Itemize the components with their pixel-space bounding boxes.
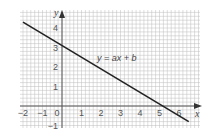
- x-tick-label: 3: [118, 108, 123, 118]
- y-axis-arrow: [59, 10, 65, 18]
- x-tick-label: 1: [79, 108, 84, 118]
- y-tick-label: 2: [53, 62, 58, 72]
- y-tick-label: 3: [53, 43, 58, 53]
- x-tick-label: 2: [98, 108, 103, 118]
- series-line: [23, 22, 189, 121]
- y-tick-label: 1: [53, 82, 58, 92]
- x-tick-label: 4: [137, 108, 142, 118]
- y-axis-label: y: [53, 7, 59, 18]
- line-chart: −2−10123456−11234 y = ax + b x y: [0, 0, 209, 136]
- y-tick-label: −1: [48, 121, 58, 131]
- x-tick-label: 5: [157, 108, 162, 118]
- x-tick-label: −2: [18, 108, 28, 118]
- x-tick-label: −1: [37, 108, 47, 118]
- equation-annotation: y = ax + b: [96, 53, 137, 63]
- series-lines: [23, 22, 189, 121]
- x-axis-label: x: [194, 108, 200, 119]
- y-tick-label: 4: [53, 23, 58, 33]
- x-tick-label: 0: [54, 108, 59, 118]
